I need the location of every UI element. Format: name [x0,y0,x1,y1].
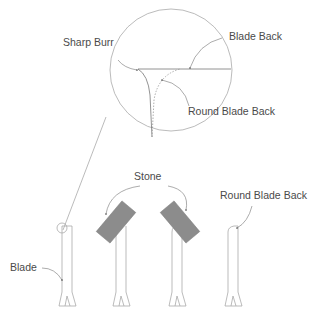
blade-1 [57,223,76,306]
stone-right [160,201,200,243]
label-round-blade-back: Round Blade Back [220,189,307,201]
label-round-blade-back-zoom: Round Blade Back [188,105,275,117]
blade-4 [225,226,242,306]
label-sharp-burr: Sharp Burr [63,36,114,48]
sharp-burr-edge [138,69,152,137]
round-blade-back-arrow-2 [237,206,252,228]
blade-sharpening-diagram [0,0,310,317]
magnifier-connector [63,117,106,230]
label-blade-back: Blade Back [229,30,282,42]
round-blade-back-arrow [162,80,189,106]
blade-back-arrow [190,38,222,68]
sharp-burr-arrow [118,60,137,70]
label-blade: Blade [10,261,37,273]
blade-arrow [42,268,62,280]
blade-2 [113,226,130,306]
round-blade-back-edge [152,69,180,137]
label-stone: Stone [134,170,161,182]
